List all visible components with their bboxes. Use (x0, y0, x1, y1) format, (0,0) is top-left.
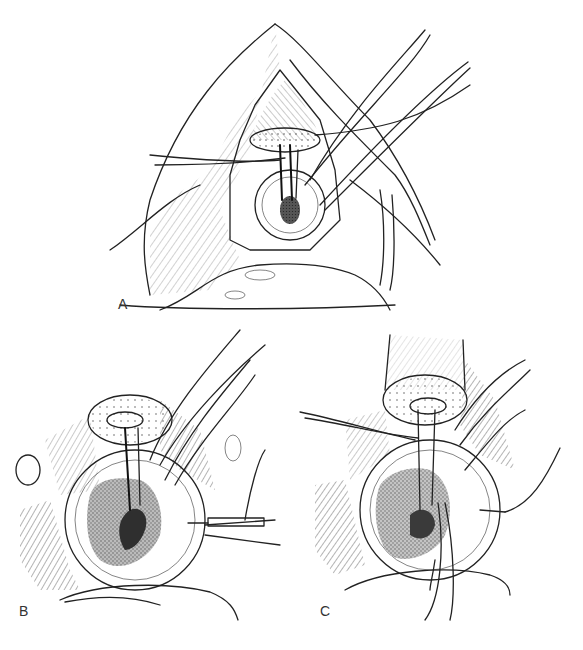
figure-panel-b (0, 320, 300, 650)
illustration-c (290, 320, 583, 650)
figure-panel-a (0, 0, 583, 320)
panel-label-c: C (320, 603, 330, 619)
panel-label-a: A (118, 296, 127, 312)
figure-panel-c (290, 320, 583, 650)
illustration-a (0, 0, 583, 320)
illustration-b (0, 320, 300, 650)
panel-label-b: B (19, 603, 28, 619)
